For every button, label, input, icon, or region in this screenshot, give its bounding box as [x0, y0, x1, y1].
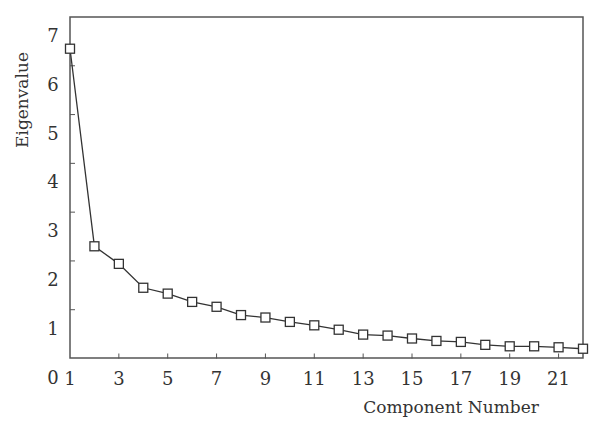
data-point-marker: [432, 336, 441, 345]
data-point-marker: [310, 321, 319, 330]
x-tick-label: 17: [449, 368, 472, 389]
x-tick-label: 3: [113, 368, 124, 389]
x-tick-label: 21: [547, 368, 570, 389]
data-point-marker: [579, 344, 588, 353]
x-axis: 13579111315171921: [64, 354, 570, 390]
scree-plot: 01234567 13579111315171921 Eigenvalue Co…: [0, 0, 602, 426]
y-tick-label: 3: [47, 220, 58, 241]
x-tick-label: 13: [352, 368, 375, 389]
data-series: [66, 44, 588, 353]
plot-frame: [70, 17, 583, 358]
data-point-marker: [530, 342, 539, 351]
data-point-marker: [383, 331, 392, 340]
y-tick-label: 6: [47, 74, 58, 95]
x-tick-label: 7: [211, 368, 222, 389]
x-axis-title: Component Number: [363, 397, 540, 417]
x-tick-label: 11: [303, 368, 326, 389]
data-point-marker: [285, 317, 294, 326]
data-point-marker: [90, 242, 99, 251]
y-tick-label: 7: [47, 25, 58, 46]
y-tick-label: 5: [47, 123, 58, 144]
y-tick-label: 0: [47, 367, 58, 388]
data-point-marker: [505, 342, 514, 351]
data-point-marker: [139, 283, 148, 292]
y-axis-title: Eigenvalue: [12, 52, 32, 148]
data-point-marker: [481, 340, 490, 349]
data-point-marker: [359, 330, 368, 339]
x-tick-label: 5: [162, 368, 173, 389]
x-tick-label: 9: [260, 368, 271, 389]
data-point-marker: [261, 313, 270, 322]
x-tick-label: 19: [498, 368, 521, 389]
x-tick-label: 15: [401, 368, 424, 389]
data-point-marker: [66, 44, 75, 53]
y-tick-label: 2: [47, 269, 58, 290]
series-line: [70, 49, 583, 349]
data-point-marker: [188, 297, 197, 306]
data-point-marker: [212, 302, 221, 311]
data-point-marker: [334, 325, 343, 334]
y-tick-label: 4: [47, 171, 58, 192]
y-axis: 01234567: [47, 25, 75, 388]
data-point-marker: [237, 311, 246, 320]
y-tick-label: 1: [47, 318, 58, 339]
data-point-marker: [554, 343, 563, 352]
data-point-marker: [456, 337, 465, 346]
chart-canvas: 01234567 13579111315171921 Eigenvalue Co…: [0, 0, 602, 426]
data-point-marker: [408, 334, 417, 343]
data-point-marker: [163, 289, 172, 298]
data-point-marker: [114, 259, 123, 268]
x-tick-label: 1: [64, 368, 75, 389]
